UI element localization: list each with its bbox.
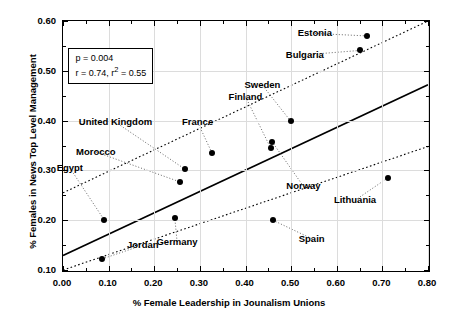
x-axis-minor-tick [360,268,361,271]
data-point-label: Bulgaria [286,49,324,60]
y-axis-tick [424,220,429,221]
data-point-label: Estonia [298,27,332,38]
data-point-label: France [182,116,213,127]
gridline-horizontal [63,220,429,221]
y-axis-minor-tick [63,146,66,147]
x-axis-tick [200,266,201,271]
x-tick-label: 0.10 [98,277,117,288]
y-axis-minor-tick [426,96,429,97]
gridline-horizontal [63,170,429,171]
x-axis-tick [291,266,292,271]
x-tick-label: 0.20 [144,277,163,288]
y-axis-tick [63,71,68,72]
x-tick-label: 0.50 [281,277,300,288]
statistics-annotation-box: p = 0.004 r = 0.74, r2 = 0.55 [68,48,153,83]
data-point [209,150,215,156]
y-axis-tick [63,220,68,221]
x-tick-label: 0.30 [190,277,209,288]
y-axis-minor-tick [426,46,429,47]
data-point [182,166,188,172]
x-tick-label: 0.40 [235,277,254,288]
gridline-vertical [154,21,155,271]
label-leader-line [246,97,271,148]
x-axis-tick [337,21,338,26]
y-axis-minor-tick [426,245,429,246]
y-axis-minor-tick [426,195,429,196]
r-value-prefix: r = 0.74, r [75,68,114,78]
label-leader-line [262,85,290,121]
y-axis-minor-tick [63,96,66,97]
data-point [288,118,294,124]
data-point [270,217,276,223]
gridline-vertical [246,21,247,271]
x-axis-tick [382,266,383,271]
y-axis-minor-tick [63,46,66,47]
y-axis-tick [63,270,68,271]
gridline-vertical [382,21,383,271]
x-axis-label: % Female Leadership in Jounalism Unions [0,297,458,308]
data-point [268,145,274,151]
y-tick-label: 0.60 [14,15,56,26]
data-point [101,217,107,223]
x-axis-minor-tick [86,21,87,24]
data-point-label: Finland [229,91,263,102]
x-axis-minor-tick [177,21,178,24]
data-point-label: Egypt [57,162,83,173]
x-axis-tick [154,21,155,26]
x-axis-minor-tick [314,268,315,271]
y-tick-label: 0.50 [14,64,56,75]
data-point [177,179,183,185]
r-squared-value: = 0.55 [118,68,146,78]
data-point [172,215,178,221]
label-leader-line [70,168,104,220]
x-axis-minor-tick [268,268,269,271]
p-value-text: p = 0.004 [75,52,146,64]
x-axis-minor-tick [131,268,132,271]
data-point [357,47,363,53]
y-axis-minor-tick [426,146,429,147]
data-point-label: United Kingdom [79,116,152,127]
y-axis-tick [63,21,68,22]
r-value-text: r = 0.74, r2 = 0.55 [75,65,146,79]
x-axis-minor-tick [268,21,269,24]
x-axis-tick [200,21,201,26]
x-axis-minor-tick [360,21,361,24]
x-axis-minor-tick [86,268,87,271]
x-tick-label: 0.00 [53,277,72,288]
x-axis-tick [337,266,338,271]
data-point-label: Lithuania [334,194,376,205]
x-axis-minor-tick [131,21,132,24]
y-axis-tick [424,170,429,171]
x-axis-tick [109,21,110,26]
x-axis-tick [109,266,110,271]
x-axis-tick [246,21,247,26]
scatter-plot-figure: % Females in News Top Level Management %… [0,0,458,321]
data-point [269,139,275,145]
plot-area: JordanEgyptGermanyMoroccoUnited KingdomF… [62,20,430,272]
y-axis-tick [424,71,429,72]
x-axis-minor-tick [405,268,406,271]
gridline-vertical [200,21,201,271]
x-axis-tick [382,21,383,26]
data-point-label: Morocco [76,146,116,157]
x-axis-minor-tick [223,21,224,24]
x-axis-tick [291,21,292,26]
data-point [385,175,391,181]
data-point-label: Sweden [244,79,280,90]
y-axis-minor-tick [63,195,66,196]
y-tick-label: 0.40 [14,114,56,125]
data-point [364,33,370,39]
x-axis-tick [154,266,155,271]
y-axis-tick [63,121,68,122]
y-axis-tick [424,270,429,271]
data-point-label: Germany [156,236,197,247]
x-tick-label: 0.80 [418,277,437,288]
data-point-label: Spain [299,233,325,244]
y-axis-minor-tick [63,245,66,246]
data-point-label: Jordan [127,239,159,250]
x-tick-label: 0.60 [327,277,346,288]
x-axis-minor-tick [405,21,406,24]
x-tick-label: 0.70 [372,277,391,288]
x-axis-minor-tick [314,21,315,24]
x-axis-minor-tick [223,268,224,271]
